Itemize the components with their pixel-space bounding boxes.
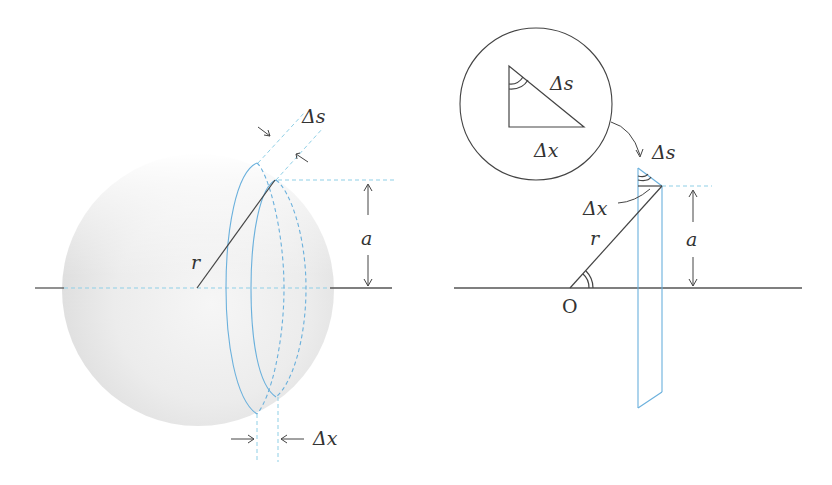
height-label-left: a	[361, 227, 372, 249]
inset-pointer	[611, 122, 640, 155]
sphere-top-fade	[61, 153, 335, 427]
delta-s-label-right: Δs	[651, 141, 676, 163]
delta-x-arrow-left	[281, 435, 304, 443]
slice-angle-arc-2	[638, 177, 651, 181]
origin-label: O	[562, 295, 578, 317]
delta-x-label-left: Δx	[312, 427, 338, 449]
height-label-right: a	[686, 228, 697, 250]
inset-delta-s: Δs	[549, 72, 574, 94]
delta-s-arrow-in-1	[258, 127, 270, 136]
slice-bottom-edge	[638, 392, 662, 408]
inset-delta-x: Δx	[533, 139, 559, 161]
delta-s-label-left: Δs	[301, 105, 326, 127]
right-panel: Δs Δx Δs Δx r a O	[454, 28, 802, 408]
radius-label-right: r	[590, 227, 601, 249]
delta-x-arrow-right	[231, 435, 254, 443]
diagram-canvas: Δs a r Δx Δs Δx Δs	[0, 0, 832, 485]
inset-angle-arc-1	[509, 77, 523, 84]
left-panel: Δs a r Δx	[35, 105, 395, 462]
origin-angle-arc-1	[583, 274, 589, 288]
delta-x-pointer	[618, 189, 650, 203]
delta-x-label-right: Δx	[582, 197, 608, 219]
delta-s-arrow-in-2	[296, 153, 308, 162]
